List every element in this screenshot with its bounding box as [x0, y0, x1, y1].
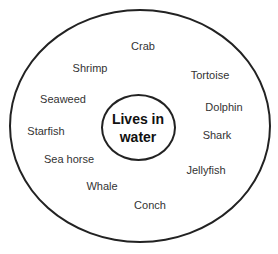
item-shrimp: Shrimp [73, 62, 108, 74]
item-seaweed: Seaweed [40, 93, 86, 105]
item-shark: Shark [203, 129, 232, 141]
item-starfish: Starfish [27, 125, 64, 137]
item-sea-horse: Sea horse [44, 153, 94, 165]
center-circle [101, 94, 176, 161]
item-conch: Conch [134, 199, 166, 211]
center-label-line2: water [120, 129, 157, 145]
item-dolphin: Dolphin [205, 101, 242, 113]
center-label-line1: Lives in [112, 111, 164, 127]
item-crab: Crab [131, 40, 155, 52]
item-whale: Whale [86, 180, 117, 192]
item-jellyfish: Jellyfish [186, 164, 225, 176]
item-tortoise: Tortoise [191, 69, 230, 81]
